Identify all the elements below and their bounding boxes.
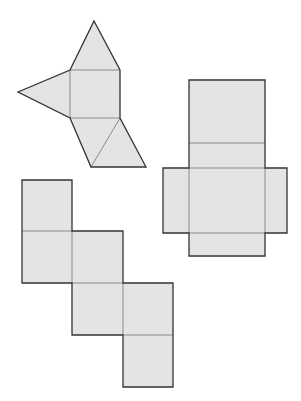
left-flap-face — [163, 168, 189, 233]
center-panel-face — [189, 168, 265, 233]
square-1-face — [22, 180, 72, 231]
square-2-face — [22, 231, 72, 283]
square-4-face — [72, 283, 123, 335]
nets-diagram — [0, 0, 301, 401]
center-square-face — [70, 70, 120, 118]
upper-middle-panel-face — [189, 143, 265, 168]
square-3-face — [72, 231, 123, 283]
square-5-face — [123, 283, 173, 335]
bottom-panel-face — [189, 233, 265, 256]
top-panel-face — [189, 80, 265, 143]
right-flap-face — [265, 168, 287, 233]
square-6-face — [123, 335, 173, 387]
